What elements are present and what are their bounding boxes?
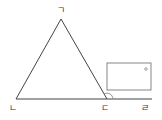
label-bottom-right: ㄷ	[101, 103, 109, 113]
label-apex: ㄱ	[57, 5, 65, 15]
side-left	[16, 19, 61, 99]
label-bottom-left: ㄴ	[9, 103, 17, 113]
label-extension-end: ㄹ	[141, 103, 149, 113]
answer-box[interactable]	[107, 63, 151, 90]
geometry-diagram: ㄱ ㄴ ㄷ ㄹ	[0, 0, 162, 120]
side-right	[61, 19, 107, 99]
